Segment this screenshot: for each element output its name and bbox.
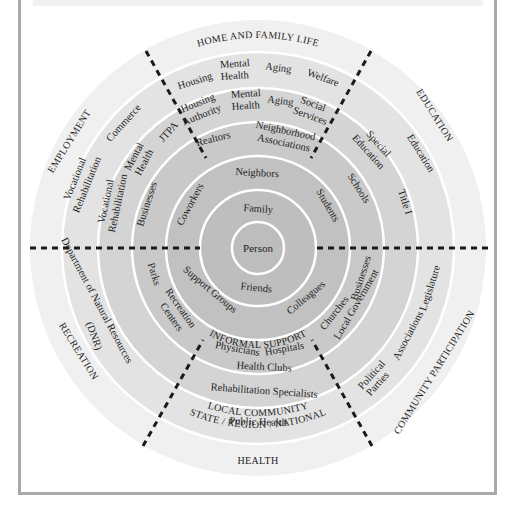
label-neighbors: Neighbors (235, 166, 279, 179)
label-mental-health-1: Mental (231, 87, 262, 100)
label-family: Family (243, 202, 274, 215)
label-mental-health-outer-1: Mental (220, 57, 251, 70)
core-person-label: Person (243, 242, 273, 254)
domain-health: HEALTH (238, 455, 279, 466)
ecological-map: Person Family Friends Neighbors Students… (0, 0, 512, 510)
label-mental-health-2: Health (231, 99, 260, 112)
label-mental-health-outer-2: Health (220, 69, 249, 82)
